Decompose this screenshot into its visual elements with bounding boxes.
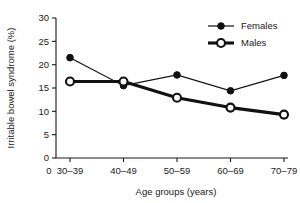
legend-label-females: Females xyxy=(241,20,278,31)
data-point-females-2 xyxy=(174,72,181,79)
y-tick-label: 20 xyxy=(38,59,49,70)
y-tick-label: 0 xyxy=(44,152,49,163)
chart-container: 05101520253030–3940–4950–5960–6970–79Age… xyxy=(0,0,300,203)
x-axis-title: Age groups (years) xyxy=(136,186,217,197)
data-point-females-4 xyxy=(281,72,288,79)
data-point-males-3 xyxy=(227,104,235,112)
data-point-males-1 xyxy=(120,77,128,85)
y-tick-label: 25 xyxy=(38,36,49,47)
x-tick-label: 60–69 xyxy=(217,165,243,176)
y-tick-label: 30 xyxy=(38,12,49,23)
data-point-males-2 xyxy=(173,94,181,102)
open-circle-icon xyxy=(217,39,225,47)
y-tick-label: 15 xyxy=(38,82,49,93)
data-point-females-0 xyxy=(67,54,74,61)
line-chart: 05101520253030–3940–4950–5960–6970–79Age… xyxy=(0,0,300,203)
x-tick-label: 40–49 xyxy=(110,165,136,176)
legend-label-males: Males xyxy=(241,37,267,48)
y-tick-label: 5 xyxy=(44,129,49,140)
origin-label: 0 xyxy=(46,165,51,176)
x-tick-label: 50–59 xyxy=(164,165,190,176)
data-point-females-3 xyxy=(227,88,234,95)
filled-circle-icon xyxy=(218,23,225,30)
data-point-males-0 xyxy=(66,77,74,85)
x-tick-label: 70–79 xyxy=(271,165,297,176)
data-point-males-4 xyxy=(280,111,288,119)
y-tick-label: 10 xyxy=(38,106,49,117)
y-axis-title: Irritable bowel syndrome (%) xyxy=(5,28,16,149)
x-tick-label: 30–39 xyxy=(57,165,83,176)
